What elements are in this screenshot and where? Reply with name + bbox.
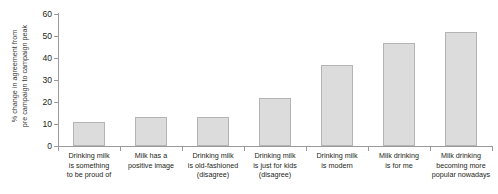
x-axis-category-label: Drinking milkis just for kids(disagree): [244, 151, 306, 194]
x-axis-category-label-line: Drinking milk: [59, 151, 119, 161]
bar: [445, 32, 477, 146]
x-axis-category-label: Drinking milkis modern: [306, 151, 368, 194]
y-axis-tick-label: 10: [42, 119, 52, 129]
bar: [259, 98, 291, 146]
y-axis-title-line-1: % change in agreement from: [11, 30, 19, 122]
bars-layer: [58, 14, 492, 146]
x-axis-category-label-line: is just for kids: [245, 161, 305, 171]
y-axis-title-line-2: pre campaign to campaign peak: [21, 25, 29, 127]
x-axis-category-label-line: Drinking milk: [245, 151, 305, 161]
x-axis-category-label-line: (disagree): [245, 170, 305, 180]
bar: [383, 43, 415, 146]
x-axis-category-label-line: is for me: [369, 161, 429, 171]
x-axis-category-label-line: Milk drinking: [369, 151, 429, 161]
x-axis-category-label: Drinking milkis somethingto be proud of: [58, 151, 120, 194]
x-axis-category-label-line: to be proud of: [59, 170, 119, 180]
x-axis-category-label-line: Milk has a: [121, 151, 181, 161]
x-axis-category-label-line: Drinking milk: [307, 151, 367, 161]
y-axis-title: % change in agreement from pre campaign …: [0, 0, 40, 152]
x-axis-category-label-line: Drinking milk: [183, 151, 243, 161]
x-axis-category-label-line: Milk drinking: [431, 151, 491, 161]
x-axis-category-label-line: is something: [59, 161, 119, 171]
y-axis-tick-label: 60: [42, 9, 52, 19]
x-axis-category-label-line: popular nowadays: [431, 170, 491, 180]
x-axis-category-label-line: is old-fashioned: [183, 161, 243, 171]
bar: [73, 122, 105, 146]
x-axis-category-label-line: becoming more: [431, 161, 491, 171]
y-axis-tick-label: 40: [42, 53, 52, 63]
x-axis-category-labels: Drinking milkis somethingto be proud ofM…: [58, 151, 492, 194]
x-axis-line: [58, 146, 492, 147]
y-axis-tick-label: 30: [42, 75, 52, 85]
x-axis-category-label-line: positive image: [121, 161, 181, 171]
x-axis-category-label-line: (disagree): [183, 170, 243, 180]
bar: [197, 117, 229, 146]
x-axis-category-label: Milk has apositive image: [120, 151, 182, 194]
y-axis-tick-label: 50: [42, 31, 52, 41]
bar: [135, 117, 167, 146]
x-axis-category-label: Drinking milkis old-fashioned(disagree): [182, 151, 244, 194]
x-axis-tick-mark: [492, 146, 493, 151]
x-axis-category-label: Milk drinkingbecoming morepopular nowada…: [430, 151, 492, 194]
bar-chart-figure: % change in agreement from pre campaign …: [0, 0, 498, 194]
x-axis-category-label: Milk drinkingis for me: [368, 151, 430, 194]
y-axis-tick-label: 20: [42, 97, 52, 107]
bar: [321, 65, 353, 146]
y-axis-tick-label: 0: [47, 141, 52, 151]
x-axis-category-label-line: is modern: [307, 161, 367, 171]
